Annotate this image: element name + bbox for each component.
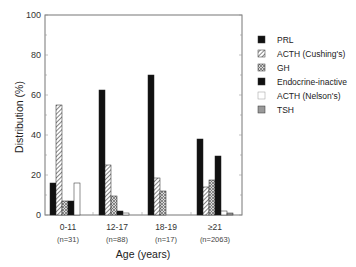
legend-swatch [258,50,265,57]
legend-label: PRL [277,35,294,45]
legend-label: ACTH (Cushing's) [277,49,345,59]
legend-label: GH [277,63,290,73]
category-label: 12-17 [106,222,128,232]
y-axis-tick-labels: 020406080100 [26,10,41,220]
bars [50,75,233,215]
bar [209,180,215,215]
y-tick-label: 40 [31,130,41,140]
legend-swatch [258,36,265,43]
bar [148,75,154,215]
legend-item: ACTH (Cushing's) [258,49,345,59]
category-label: 18-19 [155,222,177,232]
bar-group [50,105,80,215]
x-axis-labels: 0-11(n=31)12-17(n=88)18-19(n=17)≥21(n=20… [57,222,231,244]
legend-swatch [258,64,265,71]
y-tick-label: 100 [26,10,41,20]
y-tick-label: 20 [31,170,41,180]
bar-group [99,90,129,215]
bar [117,211,123,215]
bar [74,183,80,215]
legend-swatch [258,92,265,99]
legend-label: ACTH (Nelson's) [277,91,341,101]
legend-swatch [258,106,265,113]
bar [99,90,105,215]
bar [123,213,129,215]
legend-item: GH [258,63,290,73]
bar [227,213,233,215]
bar [68,201,74,215]
legend-item: ACTH (Nelson's) [258,91,341,101]
legend-label: TSH [277,105,294,115]
y-axis-title: Distribution (%) [13,81,25,153]
y-tick-label: 0 [36,210,41,220]
bar-group [197,139,233,215]
legend-label: Endocrine-inactive [277,77,347,87]
x-axis-title: Age (years) [116,248,170,260]
bar [62,201,68,215]
category-label: 0-11 [60,222,77,232]
legend: PRLACTH (Cushing's)GHEndocrine-inactiveA… [258,35,347,115]
bar [203,187,209,215]
category-n-label: (n=88) [106,235,128,244]
bar [221,211,227,215]
category-n-label: (n=17) [155,235,177,244]
bar [105,165,111,215]
legend-item: PRL [258,35,294,45]
legend-item: Endocrine-inactive [258,77,347,87]
legend-item: TSH [258,105,294,115]
bar [160,191,166,215]
bar-group [148,75,166,215]
category-n-label: (n=31) [57,235,79,244]
bar-chart: 020406080100 0-11(n=31)12-17(n=88)18-19(… [0,0,356,267]
bar [111,196,117,215]
bar [154,178,160,215]
legend-swatch [258,78,265,85]
bar [197,139,203,215]
y-tick-label: 60 [31,90,41,100]
y-tick-label: 80 [31,50,41,60]
category-n-label: (n=2063) [200,235,231,244]
bar [56,105,62,215]
bar [215,156,221,215]
bar [50,183,56,215]
category-label: ≥21 [208,222,222,232]
